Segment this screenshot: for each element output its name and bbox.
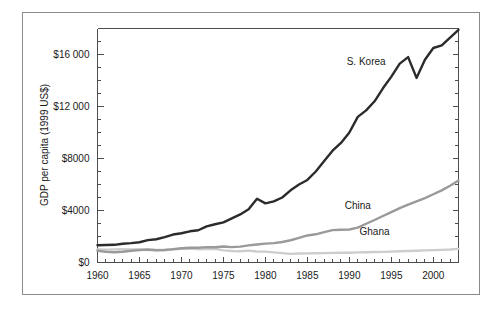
x-tick-label: 1965 bbox=[128, 270, 151, 281]
series-label-skorea: S. Korea bbox=[347, 56, 386, 67]
x-tick-label: 1980 bbox=[254, 270, 277, 281]
gdp-per-capita-line-chart: $0$4000$8000$12 000$16 00019601965197019… bbox=[0, 0, 504, 311]
y-tick-label: $0 bbox=[78, 257, 90, 268]
x-tick-label: 1960 bbox=[86, 270, 109, 281]
x-tick-label: 1990 bbox=[338, 270, 361, 281]
x-tick-label: 1985 bbox=[296, 270, 319, 281]
y-tick-label: $8000 bbox=[62, 153, 90, 164]
series-label-china: China bbox=[345, 200, 372, 211]
series-line-s-korea bbox=[98, 30, 459, 245]
series-label-ghana: Ghana bbox=[360, 226, 390, 237]
y-axis-title: GDP per capita (1999 US$) bbox=[39, 84, 50, 206]
x-tick-label: 2000 bbox=[422, 270, 445, 281]
y-tick-label: $4000 bbox=[62, 205, 90, 216]
x-tick-label: 1975 bbox=[212, 270, 235, 281]
plot-axes: $0$4000$8000$12 000$16 00019601965197019… bbox=[53, 29, 458, 281]
x-tick-label: 1995 bbox=[380, 270, 403, 281]
y-tick-label: $12 000 bbox=[53, 101, 90, 112]
series-line-china bbox=[98, 181, 459, 253]
chart-screenshot: $0$4000$8000$12 000$16 00019601965197019… bbox=[0, 0, 504, 311]
x-tick-label: 1970 bbox=[170, 270, 193, 281]
y-tick-label: $16 000 bbox=[53, 49, 90, 60]
